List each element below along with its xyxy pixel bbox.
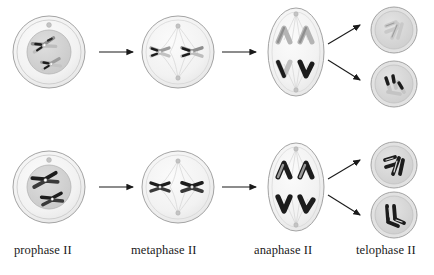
phase-label-anaphase-ii: anaphase II: [254, 243, 312, 258]
centromere: [191, 51, 194, 54]
cell-anaphase-ii-bottom: [268, 143, 324, 231]
phase-label-prophase-ii: prophase II: [14, 243, 72, 258]
phase-label-telophase-ii: telophase II: [356, 243, 416, 258]
diagram-canvas: prophase II metaphase II anaphase II tel…: [0, 0, 434, 275]
cell-prophase-ii-bottom: [13, 151, 85, 223]
meiosis-ii-diagram: [0, 0, 434, 275]
arrow-anaphase-to-telophase-top-upper: [328, 25, 360, 44]
centrosome-icon: [176, 24, 180, 28]
centrosome-icon: [176, 211, 180, 215]
centrosome-icon: [294, 223, 298, 227]
centrosome-icon: [47, 158, 52, 163]
centrosome-icon: [294, 147, 298, 151]
centromere: [159, 51, 162, 54]
centrosome-icon: [176, 159, 180, 163]
centromere: [159, 186, 162, 189]
centrosome-icon: [47, 23, 52, 28]
cell-telophase-ii-top-upper: [371, 7, 417, 53]
cell-telophase-ii-bottom-lower: [371, 192, 417, 238]
cell-metaphase-ii-bottom: [142, 151, 214, 223]
centrosome-icon: [294, 88, 298, 92]
cell-telophase-ii-top-lower: [371, 61, 417, 107]
centromere: [191, 186, 194, 189]
arrow-anaphase-to-telophase-bottom-lower: [328, 195, 360, 215]
arrow-anaphase-to-telophase-bottom-upper: [328, 160, 360, 179]
cell-prophase-ii-top: [13, 16, 85, 88]
centrosome-icon: [294, 12, 298, 16]
centromere: [50, 63, 53, 66]
arrow-anaphase-to-telophase-top-lower: [328, 60, 360, 80]
cell-anaphase-ii-top: [268, 8, 324, 96]
cell-metaphase-ii-top: [142, 16, 214, 88]
cell-telophase-ii-bottom-upper: [371, 142, 417, 188]
phase-label-metaphase-ii: metaphase II: [131, 243, 196, 258]
centrosome-icon: [176, 76, 180, 80]
